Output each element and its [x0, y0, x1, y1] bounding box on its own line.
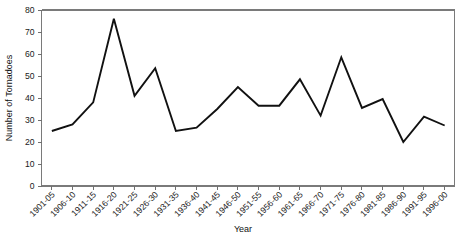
y-tick-label: 60 — [25, 49, 35, 59]
tornado-line-chart: 01020304050607080 1901-051906-101911-151… — [0, 0, 465, 241]
y-tick-label: 50 — [25, 71, 35, 81]
y-tick-label: 0 — [30, 181, 35, 191]
y-tick-label: 30 — [25, 115, 35, 125]
y-axis-title: Number of Tornadoes — [4, 54, 14, 141]
x-axis-title: Year — [234, 224, 252, 234]
chart-canvas: 01020304050607080 1901-051906-101911-151… — [0, 0, 465, 241]
y-tick-label: 10 — [25, 159, 35, 169]
y-tick-label: 80 — [25, 5, 35, 15]
y-tick-label: 20 — [25, 137, 35, 147]
y-tick-label: 40 — [25, 93, 35, 103]
y-tick-label: 70 — [25, 27, 35, 37]
